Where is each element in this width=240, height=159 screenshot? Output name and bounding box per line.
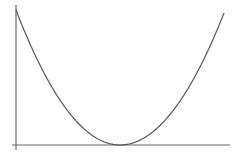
parabola-curve	[16, 10, 224, 145]
parabola-diagram	[0, 0, 240, 159]
